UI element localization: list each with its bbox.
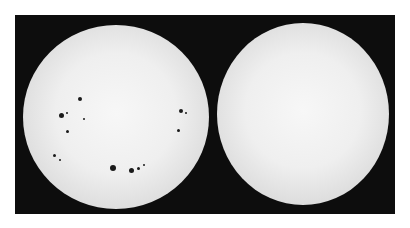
sunspot <box>129 168 134 173</box>
sunspot <box>177 129 180 132</box>
sunspot <box>66 112 68 114</box>
sunspot <box>110 165 116 171</box>
photo-frame <box>15 15 395 214</box>
sunspot <box>143 164 145 166</box>
sunspot <box>179 109 183 113</box>
sunspot <box>53 154 56 157</box>
sunspot <box>78 97 82 101</box>
sunspot <box>66 130 69 133</box>
sunspot <box>59 113 64 118</box>
sun-disk-spotless <box>217 23 389 205</box>
caption <box>90 216 350 226</box>
sunspot <box>185 112 187 114</box>
sun-disk-with-sunspots <box>23 25 209 209</box>
sunspot <box>83 118 85 120</box>
sunspot <box>137 167 140 170</box>
sunspot <box>59 159 61 161</box>
